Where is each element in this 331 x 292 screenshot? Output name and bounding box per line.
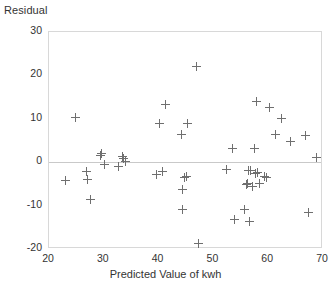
data-point [121, 157, 130, 166]
x-tick-label: 60 [252, 252, 282, 264]
data-point [177, 130, 186, 139]
data-point [192, 62, 201, 71]
data-point [97, 149, 106, 158]
data-point [271, 130, 280, 139]
y-tick-label: 10 [8, 111, 42, 123]
y-axis-title: Residual [4, 4, 48, 16]
data-point [230, 215, 239, 224]
data-point [155, 119, 164, 128]
data-point [286, 137, 295, 146]
data-point [194, 239, 203, 248]
x-tick-label: 50 [197, 252, 227, 264]
y-tick-label: 0 [8, 154, 42, 166]
data-point [158, 167, 167, 176]
data-point [178, 205, 187, 214]
data-point [183, 119, 192, 128]
y-tick-label: -10 [8, 198, 42, 210]
data-point [265, 103, 274, 112]
data-point [100, 160, 109, 169]
data-point [240, 205, 249, 214]
data-point [301, 131, 310, 140]
data-point [71, 113, 80, 122]
data-point [222, 165, 231, 174]
data-point [262, 173, 271, 182]
data-point [61, 176, 70, 185]
x-tick-label: 30 [88, 252, 118, 264]
y-tick-label: 30 [8, 24, 42, 36]
data-point [250, 144, 259, 153]
data-point [312, 153, 321, 162]
data-point [252, 97, 261, 106]
residual-scatter-plot: Residual 3020100-10-20 203040506070 Pred… [0, 0, 331, 292]
data-point [277, 114, 286, 123]
data-point [178, 185, 187, 194]
data-point [228, 144, 237, 153]
data-point [83, 175, 92, 184]
zero-reference-line [49, 162, 321, 163]
data-point [304, 208, 313, 217]
x-axis-title: Predicted Value of kwh [0, 268, 331, 280]
x-tick-label: 40 [143, 252, 173, 264]
y-tick-label: 20 [8, 67, 42, 79]
x-tick-label: 20 [33, 252, 63, 264]
x-tick-label: 70 [307, 252, 331, 264]
data-point [161, 100, 170, 109]
data-point [182, 172, 191, 181]
data-point [82, 167, 91, 176]
plot-area [48, 31, 322, 248]
data-point [245, 217, 254, 226]
data-point [86, 195, 95, 204]
